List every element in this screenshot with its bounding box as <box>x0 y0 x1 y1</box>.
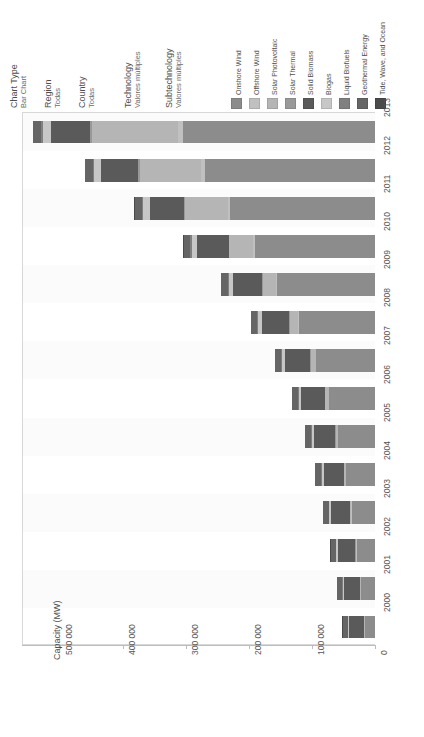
bar-segment[interactable] <box>338 425 375 448</box>
legend-swatch-icon <box>267 98 278 109</box>
axis-tick <box>249 645 250 649</box>
year-label: 2009 <box>382 250 392 269</box>
bar-segment[interactable] <box>344 577 360 600</box>
bar-2002[interactable] <box>330 539 375 562</box>
row-band <box>23 570 375 608</box>
year-label: 2000 <box>382 593 392 612</box>
bar-segment[interactable] <box>92 121 178 144</box>
legend-swatch-icon <box>321 98 332 109</box>
legend-label: Solar Photovoltaic <box>271 39 278 95</box>
bar-segment[interactable] <box>33 121 40 144</box>
bar-2010[interactable] <box>183 235 375 258</box>
bar-segment[interactable] <box>352 501 375 524</box>
year-label: 2011 <box>382 175 392 193</box>
bar-segment[interactable] <box>197 235 229 258</box>
bar-segment[interactable] <box>324 463 344 486</box>
axis-tick-label: 500 000 <box>64 624 74 655</box>
bar-segment[interactable] <box>349 616 364 639</box>
year-label: 2007 <box>382 327 392 346</box>
legend-swatch-icon <box>357 98 368 109</box>
bar-2003[interactable] <box>323 501 375 524</box>
bar-2006[interactable] <box>292 387 375 410</box>
bar-segment[interactable] <box>262 311 289 334</box>
bar-segment[interactable] <box>277 273 375 296</box>
axis-tick <box>312 645 313 649</box>
year-label: 2004 <box>382 441 392 460</box>
legend-swatch-icon <box>231 98 242 109</box>
chart-legend: Onshore WindOffshore WindSolar Photovolt… <box>0 0 424 112</box>
bar-segment[interactable] <box>329 387 375 410</box>
bar-segment[interactable] <box>357 539 375 562</box>
axis-tick <box>375 645 376 649</box>
bar-2001[interactable] <box>337 577 375 600</box>
year-label: 2012 <box>382 136 392 155</box>
bar-2011[interactable] <box>134 197 375 220</box>
legend-label: Geothermal Energy <box>361 34 368 95</box>
year-label: 2013 <box>382 98 392 117</box>
bar-segment[interactable] <box>94 159 101 182</box>
legend-label: Liquid Biofuels <box>343 49 350 95</box>
bar-segment[interactable] <box>331 501 350 524</box>
bar-segment[interactable] <box>301 387 324 410</box>
year-label: 2008 <box>382 288 392 307</box>
bar-segment[interactable] <box>51 121 90 144</box>
legend-label: Offshore Wind <box>253 50 260 95</box>
plot-area <box>22 112 375 645</box>
bar-segment[interactable] <box>229 235 253 258</box>
bar-2013[interactable] <box>33 121 375 144</box>
bar-segment[interactable] <box>135 197 142 220</box>
legend-label: Tide, Wave, and Ocean <box>379 22 386 95</box>
legend-label: Onshore Wind <box>235 50 242 95</box>
axis-tick <box>186 645 187 649</box>
axis-tick-label: 200 000 <box>253 624 263 655</box>
bar-segment[interactable] <box>255 235 375 258</box>
legend-label: Biogas <box>325 74 332 95</box>
bar-segment[interactable] <box>299 311 375 334</box>
bar-2000[interactable] <box>342 616 375 639</box>
legend-swatch-icon <box>339 98 350 109</box>
bar-segment[interactable] <box>346 463 375 486</box>
bar-segment[interactable] <box>85 159 92 182</box>
bar-segment[interactable] <box>233 273 262 296</box>
value-axis-title: Capacity (MW) <box>52 600 62 660</box>
bar-segment[interactable] <box>361 577 375 600</box>
bar-segment[interactable] <box>140 159 202 182</box>
bar-segment[interactable] <box>365 616 375 639</box>
year-label: 2005 <box>382 403 392 422</box>
bar-2008[interactable] <box>251 311 375 334</box>
bar-2009[interactable] <box>221 273 375 296</box>
bar-segment[interactable] <box>183 121 375 144</box>
bar-segment[interactable] <box>338 539 356 562</box>
year-label: 2001 <box>382 555 392 574</box>
bar-segment[interactable] <box>290 311 299 334</box>
axis-tick <box>123 645 124 649</box>
legend-label: Solar Thermal <box>289 51 296 95</box>
year-label: 2006 <box>382 365 392 384</box>
bar-2004[interactable] <box>315 463 375 486</box>
year-label: 2003 <box>382 479 392 498</box>
legend-swatch-icon <box>249 98 260 109</box>
bar-segment[interactable] <box>285 349 310 372</box>
bar-segment[interactable] <box>263 273 276 296</box>
bar-segment[interactable] <box>101 159 138 182</box>
legend-swatch-icon <box>303 98 314 109</box>
bar-segment[interactable] <box>205 159 375 182</box>
legend-label: Solid Biomass <box>307 51 314 95</box>
bar-segment[interactable] <box>150 197 184 220</box>
year-label: 2002 <box>382 517 392 536</box>
bar-segment[interactable] <box>43 121 51 144</box>
bar-segment[interactable] <box>230 197 375 220</box>
axis-tick-label: 100 000 <box>316 624 326 655</box>
bar-2005[interactable] <box>305 425 375 448</box>
bar-segment[interactable] <box>314 425 335 448</box>
bar-segment[interactable] <box>316 349 375 372</box>
axis-tick-label: 400 000 <box>127 624 137 655</box>
legend-swatch-icon <box>285 98 296 109</box>
axis-tick-label: 300 000 <box>190 624 200 655</box>
bar-2012[interactable] <box>85 159 375 182</box>
year-label: 2010 <box>382 212 392 231</box>
bar-2007[interactable] <box>275 349 376 372</box>
axis-tick-label: 0 <box>379 650 389 655</box>
bar-segment[interactable] <box>185 197 228 220</box>
bar-segment[interactable] <box>184 235 191 258</box>
